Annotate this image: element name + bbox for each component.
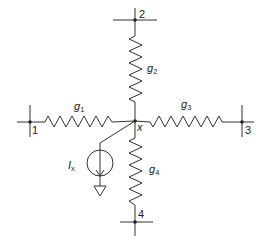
node-x-label: x [136,121,143,133]
ground-icon [94,186,106,196]
node-1-terminal: 1 [17,105,45,137]
g2-label: g2 [147,62,157,76]
node-3-label: 3 [245,124,251,136]
node-1-label: 1 [32,124,38,136]
circuit-diagram: 2 g2 1 g1 g3 3 x g4 4 [0,0,271,250]
g1-label: g1 [74,100,84,114]
node-2-terminal: 2 [113,8,157,34]
ix-label: Ix [68,159,75,173]
g3-label: g3 [181,98,191,112]
resistor-g2: g2 [129,34,157,121]
node-4-terminal: 4 [120,208,153,224]
node-2-label: 2 [139,8,145,20]
node-3-terminal: 3 [240,105,254,137]
resistor-g3: g3 [135,98,242,127]
node-4-label: 4 [138,208,144,220]
current-source-ix: Ix [68,121,135,186]
g4-label: g4 [149,163,159,177]
resistor-g1: g1 [45,100,135,127]
resistor-g4: g4 [129,121,159,236]
